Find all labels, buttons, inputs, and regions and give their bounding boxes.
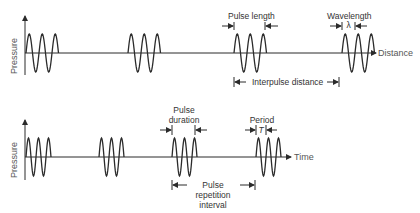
bottom-panel: Pressure Time Pulse duration Period T Pu… bbox=[9, 105, 314, 210]
interpulse-distance-label: Interpulse distance bbox=[252, 77, 324, 87]
pri-label-line1: Pulse bbox=[202, 180, 224, 190]
period-symbol: T bbox=[258, 125, 264, 135]
pri-label-line2: repetition bbox=[196, 190, 231, 200]
wavelength-symbol: λ bbox=[346, 20, 351, 30]
pri-label-line3: interval bbox=[199, 200, 227, 210]
pulse-diagram: Pressure Distance Pulse length Wavelengt… bbox=[0, 0, 420, 213]
top-y-axis-label: Pressure bbox=[9, 38, 19, 74]
bottom-y-axis-label: Pressure bbox=[9, 142, 19, 178]
top-panel: Pressure Distance Pulse length Wavelengt… bbox=[9, 11, 413, 87]
period-label: Period bbox=[250, 115, 275, 125]
bottom-x-axis-label: Time bbox=[294, 152, 314, 162]
pulse-length-label: Pulse length bbox=[228, 11, 275, 21]
pulse-duration-label-line2: duration bbox=[169, 115, 200, 125]
pulse-duration-label-line1: Pulse bbox=[173, 105, 195, 115]
top-x-axis-label: Distance bbox=[378, 48, 413, 58]
